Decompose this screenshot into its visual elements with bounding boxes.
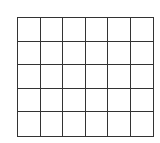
grid-cell (63, 18, 86, 42)
grid-cell (86, 89, 109, 113)
grid-cell (41, 42, 64, 66)
grid-cell (41, 65, 64, 89)
grid-diagram (17, 17, 154, 137)
grid-cell (131, 18, 154, 42)
grid-cell (18, 112, 41, 136)
grid-cell (131, 112, 154, 136)
grid-cell (86, 112, 109, 136)
grid-cell (63, 42, 86, 66)
grid-cell (131, 65, 154, 89)
grid-cell (41, 112, 64, 136)
grid-cell (18, 89, 41, 113)
grid-cell (108, 112, 131, 136)
grid-cell (131, 89, 154, 113)
grid-cell (18, 18, 41, 42)
grid-cell (108, 65, 131, 89)
grid-cell (63, 89, 86, 113)
grid-cell (86, 42, 109, 66)
grid-cell (86, 65, 109, 89)
grid-cell (63, 112, 86, 136)
grid-cell (63, 65, 86, 89)
grid-cell (18, 65, 41, 89)
grid-cell (41, 18, 64, 42)
grid-cell (18, 42, 41, 66)
grid-cell (108, 18, 131, 42)
grid-cell (41, 89, 64, 113)
grid-cell (131, 42, 154, 66)
grid-cell (108, 89, 131, 113)
diagram-canvas (0, 0, 160, 143)
grid-cell (86, 18, 109, 42)
grid-cell (108, 42, 131, 66)
